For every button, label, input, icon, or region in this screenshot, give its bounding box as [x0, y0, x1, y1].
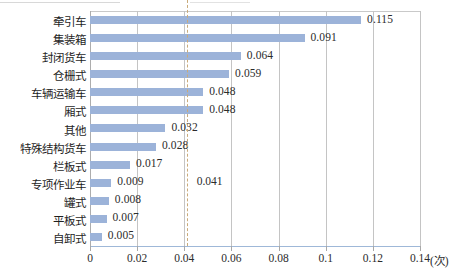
- bar-value-label: 0.005: [108, 229, 134, 241]
- bar-row: 0.009: [90, 174, 420, 192]
- bar-value-label: 0.048: [209, 103, 235, 115]
- scan-artifact-line: [0, 2, 120, 3]
- bar-value-label: 0.009: [117, 175, 143, 187]
- bar-value-label: 0.017: [136, 157, 162, 169]
- reference-line: [187, 0, 188, 246]
- plot-area: 0.1150.0910.0640.0590.0480.0480.0320.028…: [90, 11, 420, 246]
- bar-row: 0.017: [90, 156, 420, 174]
- bar: [90, 215, 107, 223]
- bar-row: 0.048: [90, 101, 420, 119]
- bar: [90, 124, 165, 132]
- y-axis-category-labels: 牵引车集装箱封闭货车仓栅式车辆运输车厢式其他特殊结构货车栏板式专项作业车罐式平板…: [0, 11, 88, 246]
- bar-series: 0.1150.0910.0640.0590.0480.0480.0320.028…: [90, 11, 420, 246]
- bar-value-label: 0.064: [247, 49, 273, 61]
- bar-row: 0.028: [90, 138, 420, 156]
- reference-line-label: 0.041: [197, 175, 223, 187]
- bar-row: 0.007: [90, 210, 420, 228]
- bar-value-label: 0.007: [113, 211, 139, 223]
- bar: [90, 70, 229, 78]
- category-label: 集装箱: [53, 31, 86, 47]
- x-tick-label: 0.06: [221, 252, 241, 264]
- bar-row: 0.059: [90, 65, 420, 83]
- x-tick-label: 0.02: [127, 252, 147, 264]
- category-label: 车辆运输车: [31, 85, 86, 101]
- bar-value-label: 0.008: [115, 193, 141, 205]
- bar-row: 0.115: [90, 11, 420, 29]
- bar: [90, 34, 305, 42]
- x-tickmark: [184, 246, 185, 251]
- category-label: 自卸式: [53, 230, 86, 246]
- category-label: 平板式: [53, 212, 86, 228]
- x-tickmark: [420, 246, 421, 251]
- x-tickmark: [137, 246, 138, 251]
- bar: [90, 233, 102, 241]
- category-label: 专项作业车: [31, 176, 86, 192]
- bar-row: 0.064: [90, 47, 420, 65]
- bar-value-label: 0.091: [311, 31, 337, 43]
- category-label: 封闭货车: [42, 49, 86, 65]
- x-tick-label: 0.04: [174, 252, 194, 264]
- bar-value-label: 0.059: [235, 67, 261, 79]
- bar-row: 0.091: [90, 29, 420, 47]
- x-tickmark: [326, 246, 327, 251]
- x-tick-label: 0.08: [269, 252, 289, 264]
- bar-row: 0.032: [90, 119, 420, 137]
- bar: [90, 16, 361, 24]
- bar-row: 0.005: [90, 228, 420, 246]
- bar-value-label: 0.028: [162, 139, 188, 151]
- bar-value-label: 0.115: [367, 13, 393, 25]
- x-tick-label: 0: [87, 252, 93, 264]
- x-axis-line: [90, 246, 420, 247]
- x-tickmark: [231, 246, 232, 251]
- category-label: 厢式: [64, 103, 86, 119]
- bar: [90, 197, 109, 205]
- x-tickmark: [90, 246, 91, 251]
- bar-row: 0.048: [90, 83, 420, 101]
- chart-figure: 牵引车集装箱封闭货车仓栅式车辆运输车厢式其他特殊结构货车栏板式专项作业车罐式平板…: [0, 0, 459, 278]
- category-label: 栏板式: [53, 158, 86, 174]
- x-tick-label: 0.1: [319, 252, 333, 264]
- x-tickmark: [279, 246, 280, 251]
- category-label: 牵引车: [53, 13, 86, 29]
- category-label: 特殊结构货车: [20, 140, 86, 156]
- category-label: 仓栅式: [53, 67, 86, 83]
- x-tickmark: [373, 246, 374, 251]
- bar: [90, 52, 241, 60]
- x-axis-unit-label: (次): [430, 252, 449, 268]
- category-label: 其他: [64, 122, 86, 138]
- bar-value-label: 0.048: [209, 85, 235, 97]
- x-tick-label: 0.12: [363, 252, 383, 264]
- bar: [90, 179, 111, 187]
- bar-value-label: 0.032: [171, 121, 197, 133]
- gridline-0.14: [420, 11, 421, 246]
- bar: [90, 161, 130, 169]
- bar-row: 0.008: [90, 192, 420, 210]
- x-tick-label: 0.14: [410, 252, 430, 264]
- scan-artifact-line-2: [190, 2, 250, 3]
- bar: [90, 143, 156, 151]
- category-label: 罐式: [64, 194, 86, 210]
